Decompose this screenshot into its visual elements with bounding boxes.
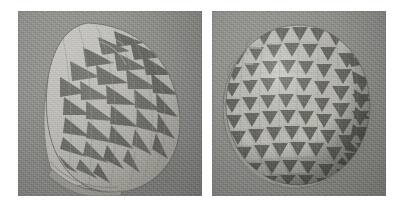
figure-photo-pair <box>0 0 403 205</box>
left-sculpture-illustration <box>18 11 202 196</box>
right-disc-illustration <box>212 11 386 196</box>
photo-panel-left <box>18 11 202 196</box>
photo-panel-right <box>212 11 386 196</box>
